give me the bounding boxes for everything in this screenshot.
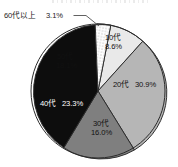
pie-label-60plus-value: 3.1% [46,11,63,20]
pie-label-50dai-category: 50代 [57,51,73,61]
pie-label-30dai-value: 16.0% [91,128,112,137]
pie-label-50dai-value: 18.1% [56,61,77,70]
pie-label-10dai-category: 10代 [105,32,121,42]
pie-label-40dai-category: 40代 [40,98,56,108]
pie-label-60plus-category: 60代以上 [4,10,36,20]
pie-label-20dai-category: 20代 [113,79,129,89]
pie-label-30dai-category: 30代 [93,118,109,128]
pie-label-10dai-value: 8.6% [105,42,122,51]
pie-chart-canvas: 60代以上 3.1% 10代 8.6% 20代 30.9% 30代 16.0% … [0,0,178,167]
pie-label-20dai-value: 30.9% [135,80,156,89]
pie-label-40dai-value: 23.3% [62,99,83,108]
pie-chart: 60代以上 3.1% 10代 8.6% 20代 30.9% 30代 16.0% … [0,0,178,167]
